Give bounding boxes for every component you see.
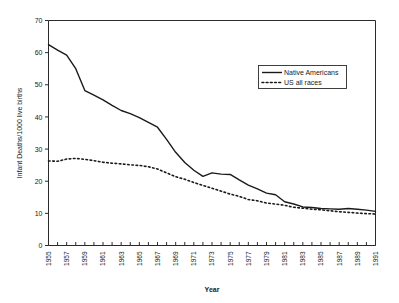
chart-svg: 010203040506070 195519571959196119631965…: [0, 0, 399, 303]
x-tick-label: 1963: [118, 251, 125, 266]
x-tick-label: 1979: [263, 251, 270, 266]
x-tick-label: 1981: [281, 251, 288, 266]
x-tick-label: 1989: [354, 251, 361, 266]
y-tick-label: 0: [39, 242, 43, 249]
y-tick-label: 40: [35, 114, 43, 121]
x-tick-label: 1959: [81, 251, 88, 266]
infant-mortality-line-chart: 010203040506070 195519571959196119631965…: [0, 0, 399, 303]
x-tick-label: 1961: [99, 251, 106, 266]
x-tick-label: 1965: [136, 251, 143, 266]
y-tick-label: 20: [35, 178, 43, 185]
x-tick-label: 1969: [172, 251, 179, 266]
x-tick-label: 1985: [317, 251, 324, 266]
legend-label-native-americans: Native Americans: [284, 69, 339, 76]
x-tick-label: 1977: [245, 251, 252, 266]
y-tick-label: 30: [35, 146, 43, 153]
y-tick-label: 10: [35, 210, 43, 217]
y-axis-ticks: 010203040506070: [35, 17, 49, 249]
x-axis-title: Year: [205, 286, 220, 293]
x-tick-label: 1987: [336, 251, 343, 266]
legend-label-us-all-races: US all races: [284, 79, 322, 86]
y-axis-title: Infant Deaths/1000 live births: [16, 87, 23, 178]
y-tick-label: 60: [35, 49, 43, 56]
y-tick-label: 70: [35, 17, 43, 24]
x-tick-label: 1983: [299, 251, 306, 266]
x-tick-label: 1955: [45, 251, 52, 266]
x-tick-label: 1975: [227, 251, 234, 266]
x-tick-label: 1957: [63, 251, 70, 266]
series-us-all-races: [49, 158, 376, 214]
x-tick-label: 1973: [208, 251, 215, 266]
plot-frame: [49, 21, 376, 246]
x-tick-label: 1967: [154, 251, 161, 266]
x-tick-label: 1991: [372, 251, 379, 266]
y-tick-label: 50: [35, 81, 43, 88]
legend: Native Americans US all races: [259, 66, 347, 89]
x-tick-label: 1971: [190, 251, 197, 266]
